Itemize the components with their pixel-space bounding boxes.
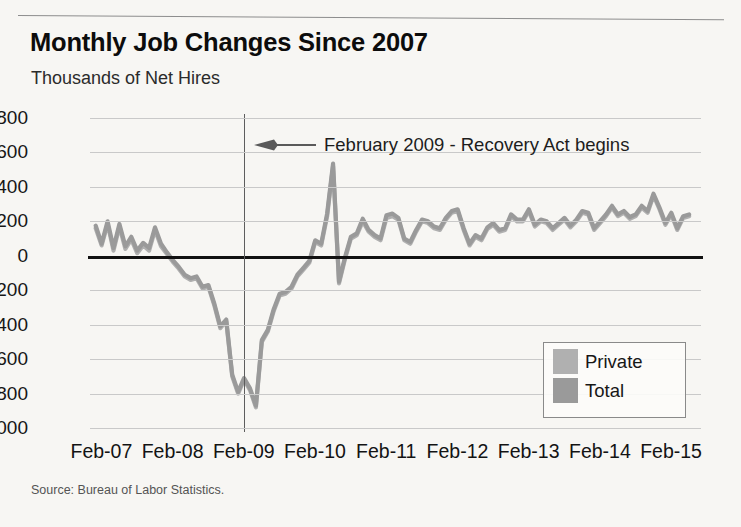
y-axis-tick-label: -200 xyxy=(0,279,28,301)
y-axis-tick-label: -800 xyxy=(0,383,28,405)
event-marker-line xyxy=(244,114,245,432)
y-axis-tick-label: 400 xyxy=(0,176,28,198)
x-axis-tick-label: Feb-09 xyxy=(213,440,275,463)
x-axis-tick-label: Feb-11 xyxy=(356,440,416,463)
x-axis-tick-label: Feb-13 xyxy=(498,440,560,463)
y-axis-tick-label: -1000 xyxy=(0,417,28,439)
y-axis-tick-label: 600 xyxy=(0,141,28,163)
x-axis: Feb-07Feb-08Feb-09Feb-10Feb-11Feb-12Feb-… xyxy=(0,440,741,470)
gridline xyxy=(90,290,701,291)
y-axis-tick-label: 0 xyxy=(17,245,28,267)
y-axis-tick-label: 800 xyxy=(0,107,28,129)
gridline xyxy=(90,221,701,222)
arrow-left-icon xyxy=(252,138,318,152)
x-axis-tick-label: Feb-15 xyxy=(640,440,702,463)
gridline xyxy=(90,325,701,326)
gridline xyxy=(90,187,701,188)
legend-label: Private xyxy=(585,351,643,373)
source-note: Source: Bureau of Labor Statistics. xyxy=(31,483,224,497)
event-annotation-label: February 2009 - Recovery Act begins xyxy=(324,134,629,156)
event-annotation: February 2009 - Recovery Act begins xyxy=(252,134,629,156)
x-axis-tick-label: Feb-12 xyxy=(427,440,489,463)
zero-baseline xyxy=(88,256,703,259)
y-axis-tick-label: -400 xyxy=(0,314,28,336)
gridline xyxy=(90,428,701,429)
y-axis-tick-label: 200 xyxy=(0,210,28,232)
legend-swatch xyxy=(553,378,578,403)
legend-label: Total xyxy=(585,380,624,402)
chart-legend: PrivateTotal xyxy=(543,342,686,418)
x-axis-tick-label: Feb-14 xyxy=(569,440,631,463)
gridline xyxy=(90,118,701,119)
legend-item: Total xyxy=(553,378,685,403)
chart-title: Monthly Job Changes Since 2007 xyxy=(30,28,428,57)
legend-swatch xyxy=(553,349,578,374)
y-axis-tick-label: -600 xyxy=(0,348,28,370)
chart-subtitle: Thousands of Net Hires xyxy=(31,68,220,89)
x-axis-tick-label: Feb-07 xyxy=(70,440,132,463)
x-axis-tick-label: Feb-10 xyxy=(284,440,346,463)
chart-figure: Monthly Job Changes Since 2007 Thousands… xyxy=(0,0,741,527)
top-divider-rule xyxy=(18,15,724,20)
legend-item: Private xyxy=(553,349,685,374)
x-axis-tick-label: Feb-08 xyxy=(142,440,204,463)
